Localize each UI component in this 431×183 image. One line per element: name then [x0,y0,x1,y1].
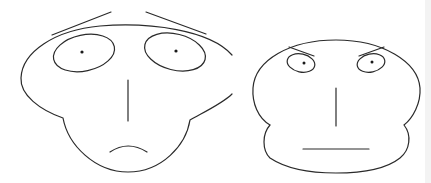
worried-face [21,12,232,172]
left-eye [50,29,118,77]
right-pupil [174,49,177,52]
left-brow [52,12,111,35]
page-edge [425,0,431,183]
frown-mouth [110,146,147,152]
figure-canvas [0,0,431,183]
faces-drawing [0,0,431,183]
right-brow [146,12,206,34]
left-pupil [80,50,83,53]
angry-face [253,40,420,173]
left-pupil [303,62,306,65]
right-pupil [371,61,374,64]
head-outline [21,25,232,172]
